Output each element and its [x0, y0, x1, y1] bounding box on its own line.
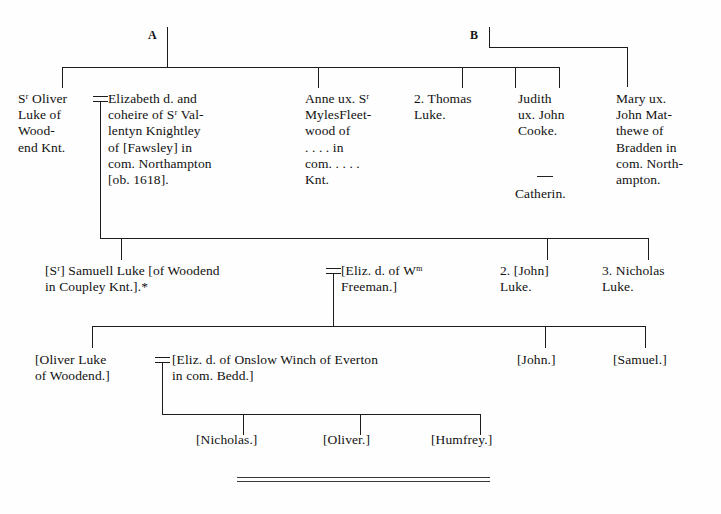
- gen2-drop-john: [547, 238, 548, 260]
- bottom-rule-ornament: [237, 477, 490, 482]
- marriage-descender-gen2: [333, 274, 334, 326]
- connector-b-to-mary: [627, 47, 628, 87]
- node-eliz-winch: [Eliz. d. of Onslow Winch of Everton in …: [172, 352, 507, 384]
- gen1-drop-anne: [318, 67, 319, 88]
- node-sr-samuell-luke: [Sʳ] Samuell Luke [of Woodend in Coupley…: [45, 263, 340, 295]
- node-nicholas-luke-3: 3. Nicholas Luke.: [602, 263, 707, 295]
- pedigree-sheet: A B Sʳ Oliver Luke of Wood- end Knt. Eli…: [0, 0, 721, 514]
- gen2-sibling-bar: [100, 238, 649, 239]
- gen1-drop-judith: [515, 67, 516, 88]
- node-judith-cooke: Judith ux. John Cooke.: [518, 91, 603, 140]
- gen4-sibling-bar: [162, 414, 481, 415]
- node-thomas-luke: 2. Thomas Luke.: [414, 91, 509, 123]
- node-nicholas-4: [Nicholas.]: [196, 432, 301, 448]
- judith-issue-dash: [537, 176, 553, 177]
- node-sr-oliver-luke: Sʳ Oliver Luke of Wood- end Knt.: [18, 91, 100, 156]
- gen1-drop-oliver: [62, 67, 63, 88]
- gen3-sibling-bar: [92, 326, 645, 327]
- connector-a-stem: [167, 27, 168, 67]
- gen1-drop-thomas: [462, 67, 463, 88]
- gen3-drop-samuel: [645, 326, 646, 348]
- branch-tag-b: B: [470, 28, 478, 43]
- marriage-descender-gen3: [162, 363, 163, 414]
- connector-b-bar: [489, 47, 628, 48]
- branch-tag-a: A: [148, 28, 157, 43]
- node-eliz-freeman: [Eliz. d. of Wᵐ Freeman.]: [341, 263, 486, 295]
- node-john-luke-2: 2. [John] Luke.: [500, 263, 595, 295]
- connector-b-stem: [489, 27, 490, 47]
- gen2-drop-nicholas: [648, 238, 649, 260]
- gen1-drop-judith-2: [559, 67, 560, 88]
- node-john-3: [John.]: [517, 352, 592, 368]
- node-oliver-4: [Oliver.]: [323, 432, 408, 448]
- node-elizabeth-knightley: Elizabeth d. and coheire of Sʳ Val- lent…: [108, 91, 288, 188]
- gen2-drop-samuell: [121, 238, 122, 260]
- node-humfrey-4: [Humfrey.]: [431, 432, 536, 448]
- marriage-descender-gen1: [100, 102, 101, 238]
- node-anne-fleetwood: Anne ux. Sʳ MylesFleet- wood of . . . . …: [305, 91, 410, 188]
- node-mary-matthewe: Mary ux. John Mat- thewe of Bradden in c…: [616, 91, 721, 188]
- node-catherin: Catherin.: [515, 186, 600, 202]
- node-samuel-3: [Samuel.]: [613, 352, 708, 368]
- gen1-sibling-bar: [62, 67, 560, 68]
- node-oliver-luke: [Oliver Luke of Woodend.]: [35, 352, 165, 384]
- gen3-drop-oliver: [92, 326, 93, 348]
- gen3-drop-john: [545, 326, 546, 348]
